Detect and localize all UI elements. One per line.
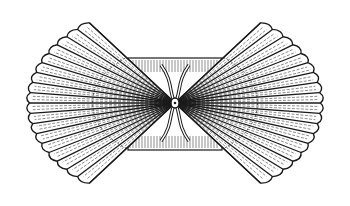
scallop-shell-drawing <box>0 0 350 206</box>
scallop-illustration <box>0 0 350 206</box>
